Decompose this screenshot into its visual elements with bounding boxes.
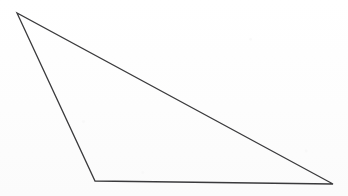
triangle-outline [17,13,333,184]
figure-canvas [0,0,348,196]
triangle-figure [0,0,348,196]
